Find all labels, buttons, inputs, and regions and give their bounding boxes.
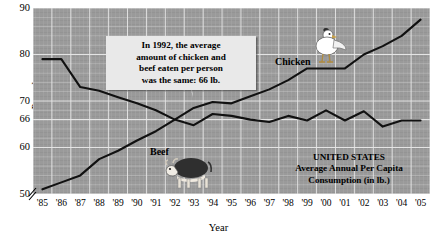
x-axis-title: Year — [0, 222, 437, 233]
y-tick-label: 70 — [4, 96, 30, 107]
x-axis-tick-labels: '85'86'87'88'89'90'91'92'93'94'95'96'97'… — [0, 199, 437, 213]
chicken-icon — [310, 26, 350, 64]
callout-line: amount of chicken and — [108, 52, 254, 64]
chart-figure: Pounds 506066708090 '85'86'87'88'89'90'9… — [0, 0, 437, 241]
y-tick-label: 66 — [4, 114, 30, 125]
source-note: UNITED STATESAverage Annual Per CapitaCo… — [268, 152, 430, 186]
callout-line: was the same: 66 lb. — [108, 75, 254, 87]
y-tick-label: 80 — [4, 49, 30, 60]
note-line: UNITED STATES — [268, 152, 430, 163]
callout-line: In 1992, the average — [108, 40, 254, 52]
y-tick-label: 90 — [4, 3, 30, 14]
callout-annotation: In 1992, the averageamount of chicken an… — [106, 36, 256, 90]
callout-line: beef eaten per person — [108, 63, 254, 75]
series-label-chicken: Chicken — [275, 56, 311, 67]
note-line: Average Annual Per Capita — [268, 163, 430, 174]
y-tick-label: 60 — [4, 142, 30, 153]
x-tick-label: '05 — [408, 199, 434, 209]
cow-icon — [163, 152, 215, 190]
note-line: Consumption (in lb.) — [268, 175, 430, 186]
